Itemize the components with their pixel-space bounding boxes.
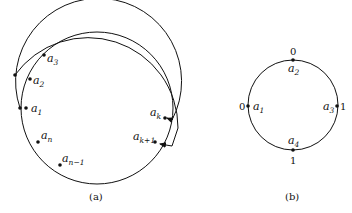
rotation-arc-outer — [15, 38, 178, 146]
point-b-a3 — [335, 104, 339, 108]
label-b-a2: a2 — [288, 62, 300, 77]
value-a2: 0 — [290, 46, 296, 57]
point-a2 — [28, 77, 32, 81]
arc-start-dot-inner — [18, 106, 22, 110]
caption-a: (a) — [89, 191, 103, 202]
label-b-a4: a4 — [288, 134, 300, 149]
label-b-a1: a1 — [253, 100, 264, 115]
diagram-b: 0 0 1 1 a2 a1 a3 a4 (b) — [239, 46, 346, 202]
point-a3 — [42, 53, 46, 57]
label-ak: ak — [150, 106, 162, 121]
figure: a3 a2 a1 an an−1 ak ak+1 (a) 0 0 1 1 a2 … — [0, 0, 352, 213]
rotation-arc-inner — [16, 0, 182, 120]
point-a1 — [24, 106, 28, 110]
label-ak1: ak+1 — [133, 130, 155, 145]
point-b-a1 — [246, 104, 250, 108]
arc-start-dot-outer — [13, 73, 17, 77]
value-a1: 0 — [239, 101, 245, 112]
rotation-arrow-outer — [160, 144, 172, 146]
value-a4: 1 — [290, 155, 296, 166]
label-an-1: an−1 — [62, 152, 84, 167]
point-an — [36, 140, 40, 144]
caption-b: (b) — [285, 191, 299, 202]
label-a2: a2 — [33, 74, 45, 89]
value-a3: 1 — [340, 101, 346, 112]
point-ak — [163, 116, 167, 120]
label-b-a3: a3 — [323, 100, 335, 115]
label-a1: a1 — [31, 102, 42, 117]
label-a3: a3 — [47, 52, 59, 67]
diagram-a: a3 a2 a1 an an−1 ak ak+1 (a) — [13, 0, 181, 202]
label-an: an — [41, 129, 53, 144]
rotation-arrow-inner — [167, 118, 172, 120]
